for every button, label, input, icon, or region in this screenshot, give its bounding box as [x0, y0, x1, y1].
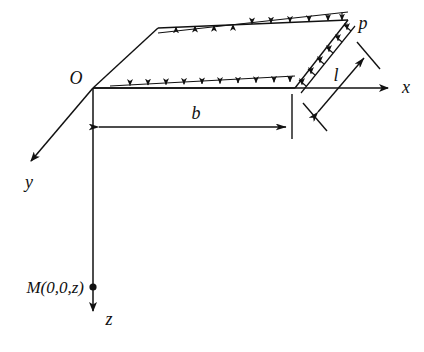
load-band-right-rail — [301, 26, 355, 93]
figure-canvas: O x y z p b l M(0,0,z) — [0, 0, 424, 352]
load-band-top-edge — [158, 12, 348, 33]
origin-label: O — [70, 68, 83, 88]
field-point-marker — [89, 283, 96, 290]
loaded-plate — [93, 20, 348, 88]
load-arrows-right — [302, 24, 347, 85]
y-axis-label: y — [23, 172, 33, 192]
dimension-b-label: b — [192, 103, 201, 123]
z-axis-label: z — [104, 309, 112, 329]
plate-edge-top-outer — [158, 20, 348, 28]
dimension-l-arrow-line — [318, 58, 364, 112]
dimension-l-label: l — [333, 65, 338, 85]
plate-edge-right-outer — [295, 20, 348, 88]
load-band-right-rungs — [299, 25, 351, 86]
field-point-label: M(0,0,z) — [25, 278, 84, 297]
x-axis-label: x — [401, 77, 410, 97]
load-band-right-edge — [299, 24, 355, 94]
plate-edge-left — [93, 28, 158, 88]
load-band-top-rail — [158, 12, 348, 33]
dimension-l-tick-near — [303, 103, 327, 131]
y-axis-line — [31, 88, 93, 161]
dimension-l-tick-far — [357, 42, 380, 69]
coordinate-diagram: O x y z p b l M(0,0,z) — [0, 0, 424, 352]
dimension-l — [303, 42, 380, 131]
load-intensity-label: p — [357, 13, 368, 33]
load-band-bottom-edge — [110, 76, 295, 86]
axis-group — [31, 88, 388, 311]
